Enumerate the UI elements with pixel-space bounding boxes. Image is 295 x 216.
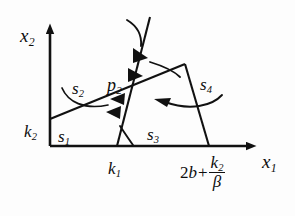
apex-hook-curve: [150, 62, 180, 77]
x-axis-label-sub: 1: [271, 162, 277, 175]
point-label-p2: p2: [107, 76, 122, 94]
k2-intercept-label: k2: [24, 123, 37, 140]
y-axis-label-sub: 2: [29, 36, 35, 49]
s3-sub: 3: [154, 134, 159, 145]
diagram-canvas: [0, 0, 295, 216]
x-axis-label-base: x: [262, 151, 270, 172]
fraction-denominator: β: [209, 173, 226, 192]
y-axis-label: x2: [20, 26, 34, 45]
region-label-s4: s4: [200, 76, 212, 93]
x-axis-label: x1: [262, 152, 276, 171]
threshold-fraction: k2β: [209, 154, 226, 192]
phase-portrait-figure: x2 x1 k2 k1 2b+k2β s1 s2 s3 s4 p2: [0, 0, 295, 216]
s1-sub: 1: [65, 136, 70, 147]
k2-sub: 2: [32, 131, 37, 142]
upper-curved-trajectory: [127, 20, 141, 46]
fraction-numerator-base: k: [211, 153, 219, 172]
k1-sub: 1: [116, 168, 121, 179]
fraction-numerator: k2: [209, 154, 226, 173]
threshold-plus-operator: +: [197, 163, 209, 182]
region-label-s2: s2: [72, 80, 84, 97]
region-label-s1: s1: [58, 128, 70, 145]
y-axis-label-base: x: [20, 25, 28, 46]
steep-trajectory-line: [117, 17, 150, 146]
lower-curve-arc: [120, 126, 133, 145]
k1-base: k: [108, 159, 116, 178]
s4-leader-arrowhead: [154, 98, 171, 107]
threshold-tick-label: 2b+k2β: [180, 155, 225, 193]
flow-arrowheads-s2: [106, 93, 125, 119]
region-label-s3: s3: [147, 126, 159, 143]
threshold-variable-b: b: [189, 163, 198, 182]
apex-hook-path: [150, 62, 180, 77]
lower-branch-curve: [120, 126, 133, 145]
s2-base: s: [72, 79, 79, 98]
fraction-numerator-sub: 2: [218, 162, 223, 173]
s3-base: s: [147, 125, 154, 144]
upper-curve-arc: [127, 20, 141, 46]
s4-base: s: [200, 75, 207, 94]
p2-sub: 2: [116, 84, 122, 96]
threshold-coefficient: 2: [180, 163, 189, 182]
arrowhead-s2-lower: [106, 106, 121, 119]
steep-line-segment: [117, 17, 150, 146]
s2-sub: 2: [79, 88, 84, 99]
p2-base: p: [107, 75, 116, 95]
s4-sub: 4: [207, 84, 212, 95]
s1-base: s: [58, 127, 65, 146]
k2-base: k: [24, 122, 32, 141]
k1-tick-label: k1: [108, 160, 121, 177]
s4-leader-curve: [154, 95, 222, 107]
